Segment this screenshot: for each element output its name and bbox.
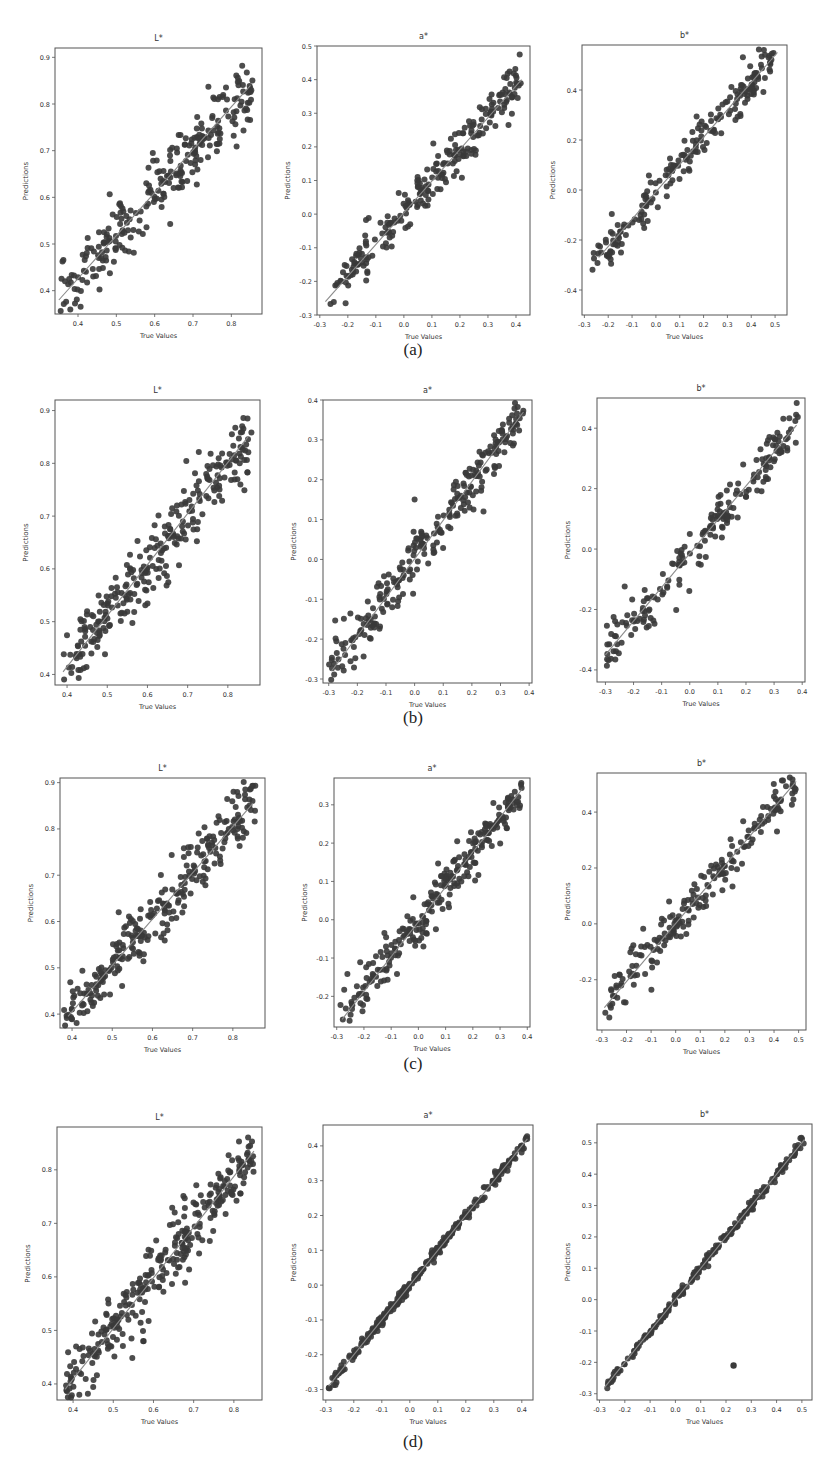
- y-tick-label: 0.2: [319, 840, 329, 848]
- figure-canvas: L*0.40.50.60.70.80.40.50.60.70.80.9True …: [0, 0, 838, 1477]
- x-tick-label: -0.3: [322, 689, 335, 697]
- x-tick-label: 0.4: [67, 1034, 77, 1042]
- x-tick-label: -0.2: [620, 1036, 633, 1044]
- y-tick-label: -0.2: [579, 1359, 592, 1367]
- x-tick-label: 0.2: [468, 1033, 478, 1041]
- x-axis-label: True Values: [408, 1418, 447, 1426]
- plot-title: b*: [697, 759, 706, 768]
- y-tick-label: 0.2: [582, 1233, 592, 1241]
- scatter-plot-a-0: L*0.40.50.60.70.80.40.50.60.70.80.9True …: [22, 34, 262, 340]
- x-tick-label: -0.3: [319, 1406, 332, 1414]
- outlier-point: [730, 1362, 736, 1368]
- x-tick-label: 0.1: [675, 321, 685, 329]
- x-tick-label: 0.7: [182, 691, 192, 699]
- y-tick-label: 0.4: [42, 1380, 52, 1388]
- y-tick-label: 0.5: [582, 1139, 592, 1147]
- x-tick-label: 0.2: [461, 1406, 471, 1414]
- y-tick-label: -0.1: [316, 955, 329, 963]
- y-axis-label: Predictions: [290, 1243, 298, 1282]
- y-tick-label: 0.0: [308, 556, 318, 564]
- y-tick-label: 0.2: [582, 864, 592, 872]
- y-tick-label: -0.1: [305, 596, 318, 604]
- y-tick-label: 0.9: [40, 54, 50, 62]
- x-tick-label: -0.1: [370, 321, 383, 329]
- x-tick-label: 0.1: [440, 1033, 450, 1041]
- x-axis-label: True Values: [412, 1045, 451, 1053]
- x-tick-label: -0.3: [599, 688, 612, 696]
- y-tick-label: 0.5: [302, 43, 312, 51]
- plot-title: b*: [696, 384, 705, 393]
- x-tick-label: 0.5: [108, 1406, 118, 1414]
- y-tick-label: -0.2: [579, 976, 592, 984]
- x-axis-label: True Values: [685, 1418, 724, 1426]
- y-tick-label: -0.2: [305, 636, 318, 644]
- scatter-plot-c-7: a*-0.3-0.2-0.10.00.10.20.30.4-0.2-0.10.0…: [301, 764, 532, 1053]
- x-tick-label: 0.3: [746, 1406, 756, 1414]
- x-tick-label: 0.4: [522, 1033, 532, 1041]
- scatter-plot-b-5: b*-0.3-0.2-0.10.00.10.20.30.4-0.4-0.20.0…: [564, 384, 807, 708]
- y-tick-label: 0.0: [319, 916, 329, 924]
- y-tick-label: -0.4: [564, 287, 577, 295]
- x-tick-label: 0.2: [721, 1406, 731, 1414]
- plot-title: L*: [158, 764, 166, 773]
- x-tick-label: 0.8: [229, 1406, 239, 1414]
- x-tick-label: 0.2: [455, 321, 465, 329]
- y-tick-label: 0.6: [40, 194, 50, 202]
- y-tick-label: 0.7: [42, 1220, 52, 1228]
- plot-title: a*: [424, 1111, 433, 1120]
- plot-title: L*: [154, 34, 162, 43]
- x-axis-label: True Values: [138, 703, 177, 711]
- x-tick-label: -0.3: [593, 1406, 606, 1414]
- subfigure-caption: (a): [383, 340, 443, 360]
- x-tick-label: 0.0: [405, 1406, 415, 1414]
- x-tick-label: -0.2: [618, 1406, 631, 1414]
- y-tick-label: 0.0: [308, 1282, 318, 1290]
- x-tick-label: 0.7: [188, 320, 198, 328]
- y-tick-label: 0.4: [302, 76, 312, 84]
- plot-title: L*: [155, 1113, 163, 1122]
- y-tick-label: 0.3: [308, 1177, 318, 1185]
- x-tick-label: 0.2: [741, 688, 751, 696]
- y-tick-label: -0.3: [579, 1390, 592, 1398]
- x-tick-label: 0.1: [695, 1036, 705, 1044]
- y-tick-label: 0.3: [582, 1202, 592, 1210]
- scatter-plot-c-6: L*0.40.50.60.70.80.40.50.60.70.80.9True …: [27, 764, 265, 1054]
- y-tick-label: 0.0: [567, 187, 577, 195]
- scatter-plot-b-3: L*0.40.50.60.70.80.40.50.60.70.80.9True …: [22, 386, 260, 711]
- x-tick-label: -0.1: [655, 688, 668, 696]
- x-tick-label: 0.1: [713, 688, 723, 696]
- x-tick-label: 0.5: [793, 1036, 803, 1044]
- x-tick-label: 0.6: [147, 1034, 157, 1042]
- x-tick-label: 0.5: [770, 321, 780, 329]
- x-axis-label: True Values: [140, 1418, 179, 1426]
- x-tick-label: 0.8: [226, 320, 236, 328]
- y-tick-label: -0.1: [305, 1316, 318, 1324]
- y-tick-label: 0.0: [582, 546, 592, 554]
- x-tick-label: -0.2: [347, 1406, 360, 1414]
- x-tick-label: -0.1: [380, 689, 393, 697]
- scatter-plot-c-8: b*-0.3-0.2-0.10.00.10.20.30.40.5-0.20.00…: [564, 759, 806, 1056]
- x-tick-label: -0.1: [644, 1406, 657, 1414]
- x-tick-label: -0.1: [626, 321, 639, 329]
- x-tick-label: 0.5: [102, 691, 112, 699]
- x-tick-label: 0.5: [107, 1034, 117, 1042]
- y-tick-label: 0.6: [45, 918, 55, 926]
- plot-title: a*: [423, 386, 432, 395]
- y-axis-label: Predictions: [301, 883, 309, 922]
- y-axis-label: Predictions: [22, 161, 30, 200]
- x-tick-label: 0.7: [188, 1406, 198, 1414]
- x-tick-label: 0.5: [797, 1406, 807, 1414]
- y-tick-label: 0.5: [45, 964, 55, 972]
- x-tick-label: 0.4: [524, 689, 534, 697]
- y-tick-label: 0.9: [45, 779, 55, 787]
- y-tick-label: -0.3: [299, 312, 312, 320]
- y-tick-label: 0.1: [319, 878, 329, 886]
- y-tick-label: 0.4: [567, 87, 577, 95]
- scatter-plot-a-2: b*-0.3-0.2-0.10.00.10.20.30.40.5-0.4-0.2…: [549, 31, 787, 341]
- x-tick-label: 0.0: [685, 688, 695, 696]
- y-tick-label: 0.3: [319, 801, 329, 809]
- y-axis-label: Predictions: [564, 1242, 572, 1281]
- y-tick-label: 0.3: [302, 110, 312, 118]
- x-tick-label: 0.4: [769, 1036, 779, 1044]
- y-tick-label: 0.2: [302, 143, 312, 151]
